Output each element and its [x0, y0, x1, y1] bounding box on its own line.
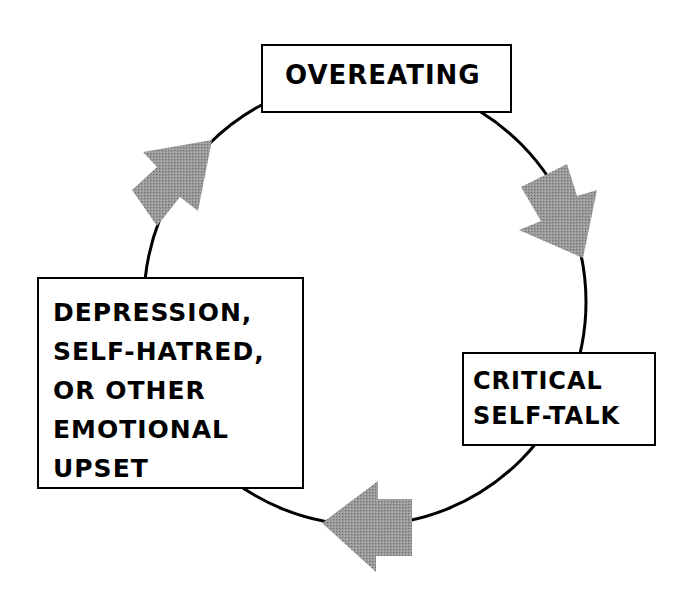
node-label: SELF-HATRED,	[53, 332, 302, 371]
arrow-left-icon	[322, 481, 412, 572]
arrow-down-right-icon	[519, 164, 597, 258]
node-label: DEPRESSION,	[53, 293, 302, 332]
node-label: EMOTIONAL	[53, 410, 302, 449]
node-label: OR OTHER	[53, 371, 302, 410]
node-label: SELF-TALK	[473, 399, 654, 434]
node-critical-self-talk: CRITICAL SELF-TALK	[462, 352, 656, 446]
node-overeating: OVEREATING	[261, 44, 512, 113]
node-label: CRITICAL	[473, 364, 654, 399]
node-emotional-upset: DEPRESSION, SELF-HATRED, OR OTHER EMOTIO…	[37, 277, 304, 489]
node-label: OVEREATING	[285, 60, 510, 90]
node-label: UPSET	[53, 449, 302, 488]
arrow-up-right-icon	[132, 140, 212, 226]
